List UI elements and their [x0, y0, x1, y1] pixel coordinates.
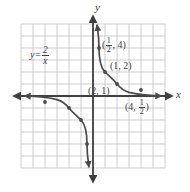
point-label-half-four: (12, 4): [102, 37, 126, 54]
graph-figure: x y y=2x (12, 4) (1, 2) (2, 1) (4, 12): [0, 0, 190, 192]
point-neg-half-four: [85, 142, 89, 146]
x-axis-label: x: [176, 89, 181, 100]
point-two-one: [115, 82, 119, 86]
equation-fraction: 2x: [42, 45, 49, 66]
fraction-one-half: 12: [106, 37, 112, 54]
point-neg-one-two: [79, 118, 83, 122]
point-half-four: [97, 46, 101, 50]
fraction-one-half: 12: [139, 99, 145, 116]
coordinate-plane-svg: [0, 0, 190, 192]
point-neg-two-one: [67, 106, 71, 110]
paren-close: ): [145, 101, 148, 112]
fraction-denominator: 2: [106, 46, 112, 54]
equation-equals: =: [34, 49, 41, 60]
point-four-half: [139, 88, 143, 92]
point-label-four-half: (4, 12): [125, 99, 149, 116]
paren-open: (4,: [125, 101, 138, 112]
equation-denominator: x: [42, 56, 49, 66]
equation-label: y=2x: [30, 45, 49, 66]
point-neg-four-half: [43, 100, 47, 104]
label-mid: , 4: [112, 39, 122, 50]
y-axis-label: y: [95, 2, 100, 13]
point-label-one-two: (1, 2): [110, 61, 132, 71]
paren-close: ): [122, 39, 125, 50]
paren-open: (: [102, 39, 105, 50]
equation-numerator: 2: [42, 45, 49, 56]
point-label-two-one: (2, 1): [88, 86, 110, 96]
point-one-two: [103, 70, 107, 74]
fraction-denominator: 2: [139, 108, 145, 116]
